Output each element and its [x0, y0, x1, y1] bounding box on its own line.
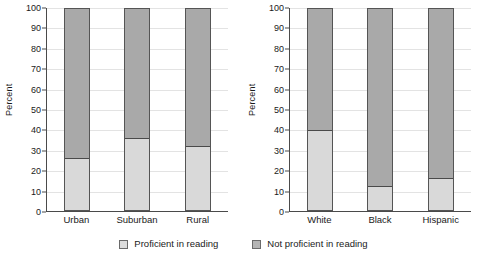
stacked-bar [428, 8, 454, 211]
legend-item: Proficient in reading [119, 239, 218, 249]
stacked-bar [307, 8, 333, 211]
y-axis-tick-label: 40 [274, 126, 284, 135]
plot-area-right [289, 8, 471, 212]
stacked-bar [64, 8, 90, 211]
bar-segment-proficient [125, 138, 149, 210]
x-axis-label: Rural [167, 213, 228, 227]
stacked-bar [124, 8, 150, 211]
chart-panel-locale: Percent 1009080706050403020100 UrbanSubu… [0, 0, 243, 232]
y-axis-tick-label: 50 [274, 106, 284, 115]
stacked-bar-figure: Percent 1009080706050403020100 UrbanSubu… [0, 0, 487, 258]
x-axis-labels-right: WhiteBlackHispanic [289, 213, 471, 229]
y-axis-tick-label: 70 [274, 65, 284, 74]
x-axis-label: Suburban [107, 213, 168, 227]
y-axis-tick-label: 10 [31, 187, 41, 196]
y-axis-tick-label: 80 [274, 44, 284, 53]
stacked-bar [185, 8, 211, 211]
y-axis-ticks-right: 1009080706050403020100 [257, 8, 289, 212]
bar-segment-proficient [186, 146, 210, 210]
bar-segment-proficient [429, 178, 453, 210]
chart-legend: Proficient in readingNot proficient in r… [0, 234, 487, 254]
y-axis-tick-label: 90 [274, 24, 284, 33]
stacked-bar [367, 8, 393, 211]
y-axis-tick-label: 20 [31, 167, 41, 176]
y-axis-tick-label: 80 [31, 44, 41, 53]
x-axis-label: Black [350, 213, 411, 227]
legend-swatch-icon [119, 240, 128, 249]
x-axis-label: Hispanic [410, 213, 471, 227]
legend-label: Proficient in reading [134, 239, 218, 249]
y-axis-tick-label: 100 [269, 4, 284, 13]
y-axis-tick-label: 20 [274, 167, 284, 176]
y-axis-tick-label: 0 [36, 208, 41, 217]
y-axis-tick-label: 0 [279, 208, 284, 217]
y-axis-tick-label: 30 [274, 146, 284, 155]
bar-segment-proficient [368, 186, 392, 210]
x-axis-label: Urban [46, 213, 107, 227]
legend-item: Not proficient in reading [252, 239, 367, 249]
y-axis-tick-label: 70 [31, 65, 41, 74]
y-axis-ticks-left: 1009080706050403020100 [14, 8, 46, 212]
y-axis-tick-label: 90 [31, 24, 41, 33]
y-axis-tick-label: 60 [274, 85, 284, 94]
bar-group-left [47, 8, 228, 211]
y-axis-tick-label: 50 [31, 106, 41, 115]
y-axis-tick-label: 10 [274, 187, 284, 196]
x-axis-label: White [289, 213, 350, 227]
chart-panel-race: Percent 1009080706050403020100 WhiteBlac… [243, 0, 486, 232]
legend-swatch-icon [252, 240, 261, 249]
legend-label: Not proficient in reading [267, 239, 367, 249]
plot-area-left [46, 8, 228, 212]
bar-group-right [290, 8, 471, 211]
y-axis-tick-label: 40 [31, 126, 41, 135]
y-axis-tick-label: 30 [31, 146, 41, 155]
bar-segment-proficient [65, 158, 89, 210]
bar-segment-proficient [308, 130, 332, 210]
y-axis-tick-label: 60 [31, 85, 41, 94]
x-axis-labels-left: UrbanSuburbanRural [46, 213, 228, 229]
y-axis-tick-label: 100 [26, 4, 41, 13]
